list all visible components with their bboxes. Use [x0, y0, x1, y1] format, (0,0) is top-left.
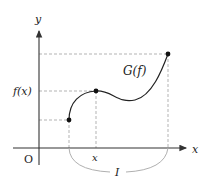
x-axis-label: x — [192, 143, 199, 156]
interval-label: I — [114, 166, 120, 179]
x-point-label: x — [92, 152, 98, 163]
x-fx-point — [94, 89, 99, 94]
function-graph-diagram: y x O f(x) x G(f) I — [0, 0, 212, 186]
origin-label: O — [24, 153, 33, 166]
interval-start-point — [67, 118, 72, 123]
y-axis-label: y — [34, 13, 42, 26]
fx-label: f(x) — [12, 85, 32, 98]
interval-end-point — [166, 52, 171, 57]
graph-label: G(f) — [123, 64, 147, 78]
diagram-svg: y x O f(x) x G(f) I — [0, 0, 212, 186]
function-curve — [69, 54, 168, 120]
dashed-guides — [39, 54, 168, 148]
